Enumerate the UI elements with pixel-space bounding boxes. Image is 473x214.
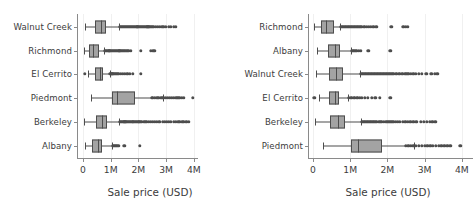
outlier-point [378, 96, 381, 99]
median-line [338, 115, 339, 128]
outlier-point [449, 144, 452, 147]
x-tick-mark [387, 159, 388, 162]
x-tick-label: 0 [310, 164, 316, 175]
panel-right: 01M2M3M4MSale price (USD)RichmondAlbanyW… [0, 0, 473, 214]
whisker-low [317, 50, 328, 51]
median-line [326, 21, 327, 34]
x-tick-label: 3M [418, 164, 432, 175]
outlier-point [434, 120, 437, 123]
x-tick-label: 2M [381, 164, 395, 175]
gridline [350, 14, 351, 158]
gridline [387, 14, 388, 158]
outlier-point [425, 72, 428, 75]
outlier-point [389, 96, 392, 99]
y-axis-spine [308, 14, 309, 158]
whisker-cap-low [317, 47, 318, 54]
y-tick-label: Berkeley [265, 117, 303, 127]
median-line [358, 139, 359, 152]
y-tick-mark [305, 74, 308, 75]
x-tick-mark [462, 159, 463, 162]
whisker-low [315, 121, 331, 122]
outlier-point [367, 49, 370, 52]
whisker-high [343, 74, 360, 75]
y-tick-mark [305, 98, 308, 99]
outlier-point [359, 49, 362, 52]
y-tick-mark [305, 51, 308, 52]
outlier-point [374, 96, 377, 99]
gridline [313, 14, 314, 158]
y-tick-label: El Cerrito [262, 93, 303, 103]
y-tick-label: Piedmont [262, 141, 303, 151]
x-tick-mark [425, 159, 426, 162]
whisker-cap-low [316, 71, 317, 78]
gridline [462, 14, 463, 158]
median-line [335, 44, 336, 57]
y-tick-mark [305, 122, 308, 123]
x-axis-title: Sale price (USD) [345, 186, 430, 198]
box [321, 21, 334, 34]
outlier-point [375, 25, 378, 28]
outlier-point [389, 49, 392, 52]
whisker-cap-low [319, 94, 320, 101]
outlier-point [436, 72, 439, 75]
outlier-point [390, 25, 393, 28]
whisker-cap-low [315, 118, 316, 125]
whisker-cap-low [314, 24, 315, 31]
whisker-cap-low [323, 142, 324, 149]
whisker-low [319, 97, 329, 98]
whisker-low [316, 74, 329, 75]
x-tick-mark [313, 159, 314, 162]
y-tick-label: Richmond [259, 22, 303, 32]
y-tick-mark [305, 146, 308, 147]
outlier-point [415, 120, 418, 123]
x-tick-label: 4M [455, 164, 469, 175]
whisker-high [340, 50, 352, 51]
gridline [425, 14, 426, 158]
y-tick-mark [305, 27, 308, 28]
whisker-low [314, 27, 321, 28]
median-line [336, 68, 337, 81]
x-tick-mark [350, 159, 351, 162]
box [351, 139, 382, 152]
whisker-low [323, 145, 351, 146]
outlier-point [420, 72, 423, 75]
outlier-point [406, 25, 409, 28]
median-line [335, 91, 336, 104]
x-axis-spine [308, 158, 473, 159]
boxplot-figure: 01M2M3M4MSale price (USD)Walnut CreekRic… [0, 0, 473, 214]
whisker-high [345, 121, 361, 122]
outlier-point [313, 96, 316, 99]
x-tick-label: 1M [343, 164, 357, 175]
y-tick-label: Albany [273, 46, 303, 56]
y-tick-label: Walnut Creek [244, 69, 303, 79]
